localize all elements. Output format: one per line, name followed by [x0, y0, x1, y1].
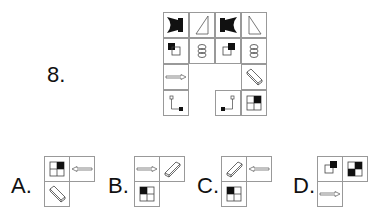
- option-label: D.: [293, 173, 315, 199]
- arrow-left-icon: [70, 157, 94, 181]
- option-c[interactable]: C.: [190, 140, 280, 220]
- grid-cell: [241, 38, 267, 64]
- bowtie-filled-right-icon: [216, 13, 240, 37]
- prism-icon: [160, 157, 184, 181]
- stacked-ovals-icon: [242, 39, 266, 63]
- corner-bracket-icon: [216, 91, 240, 115]
- overlapping-squares-icon: [216, 39, 240, 63]
- option-cell: [69, 156, 95, 182]
- option-label: B.: [108, 173, 129, 199]
- arrow-right-icon: [318, 182, 342, 206]
- grid-cell: [241, 90, 267, 116]
- arrow-left-icon: [247, 157, 271, 181]
- corner-bracket-icon: [164, 91, 188, 115]
- option-label: A.: [11, 173, 32, 199]
- question-number: 8.: [47, 62, 65, 88]
- option-cell: [159, 156, 185, 182]
- quad-square-icon: [222, 182, 246, 206]
- option-cell: [342, 156, 368, 182]
- option-cell: [246, 156, 272, 182]
- overlapping-squares-icon: [318, 157, 342, 181]
- quad-square-icon: [135, 182, 159, 206]
- option-cell: [317, 181, 343, 207]
- option-b[interactable]: B.: [100, 140, 190, 220]
- prism-icon: [222, 157, 246, 181]
- bowtie-filled-left-icon: [164, 13, 188, 37]
- option-cell: [44, 181, 70, 207]
- prism-icon: [242, 65, 266, 89]
- grid-cell: [163, 64, 189, 90]
- quad-diagonal-icon: [343, 157, 367, 181]
- stacked-ovals-icon: [190, 39, 214, 63]
- grid-cell: [163, 38, 189, 64]
- grid-cell: [241, 64, 267, 90]
- grid-cell: [215, 38, 241, 64]
- arrow-right-icon: [135, 157, 159, 181]
- triangle-icon: [190, 13, 214, 37]
- prism-icon: [45, 182, 69, 206]
- option-label: C.: [197, 173, 219, 199]
- option-cell: [221, 156, 247, 182]
- option-a[interactable]: A.: [0, 140, 100, 220]
- option-cell: [317, 156, 343, 182]
- quad-square-icon: [242, 91, 266, 115]
- option-cell: [44, 156, 70, 182]
- arrow-right-icon: [164, 65, 188, 89]
- option-cell: [134, 181, 160, 207]
- grid-cell: [189, 12, 215, 38]
- grid-cell: [215, 90, 241, 116]
- option-cell: [134, 156, 160, 182]
- triangle-icon: [242, 13, 266, 37]
- grid-cell: [215, 12, 241, 38]
- grid-cell: [189, 38, 215, 64]
- option-d[interactable]: D.: [280, 140, 386, 220]
- quad-square-icon: [45, 157, 69, 181]
- grid-cell: [241, 12, 267, 38]
- overlapping-squares-icon: [164, 39, 188, 63]
- grid-cell: [163, 90, 189, 116]
- grid-cell: [163, 12, 189, 38]
- option-cell: [221, 181, 247, 207]
- puzzle-grid: [163, 12, 267, 116]
